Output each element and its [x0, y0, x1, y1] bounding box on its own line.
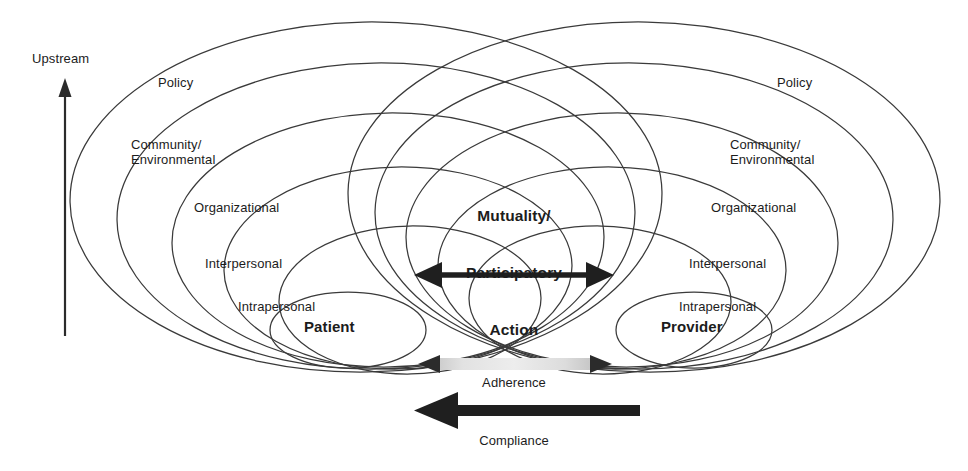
patient-level-interpersonal-label: Interpersonal — [205, 257, 282, 272]
patient-level-organizational-label: Organizational — [194, 201, 279, 216]
upstream-arrow-head — [59, 78, 72, 97]
compliance-arrow — [414, 392, 640, 429]
patient-level-intrapersonal-label: Intrapersonal — [238, 300, 315, 315]
patient-level-community-label: Community/Environmental — [131, 138, 215, 167]
patient-level-policy-label: Policy — [158, 76, 193, 91]
compliance-label: Compliance — [454, 434, 574, 449]
compliance-arrow-head — [414, 392, 458, 429]
provider-level-intrapersonal-label: Intrapersonal — [679, 300, 756, 315]
mutuality-label-block: Mutuality/ Participatory Action — [426, 168, 602, 377]
provider-actor-label: Provider — [661, 320, 723, 335]
adherence-label: Adherence — [454, 376, 574, 391]
provider-level-community-label: Community/Environmental — [730, 138, 814, 167]
provider-level-organizational-label: Organizational — [711, 201, 796, 216]
upstream-label: Upstream — [32, 52, 89, 67]
upstream-arrow — [59, 78, 72, 336]
diagram-canvas: Upstream Policy Community/Environmental … — [0, 0, 968, 471]
mutuality-line-2: Participatory — [426, 263, 602, 282]
mutuality-line-1: Mutuality/ — [426, 206, 602, 225]
provider-level-policy-label: Policy — [777, 76, 812, 91]
provider-level-interpersonal-label: Interpersonal — [689, 257, 766, 272]
mutuality-line-3: Action — [426, 320, 602, 339]
patient-actor-label: Patient — [304, 320, 355, 335]
compliance-arrow-shaft — [452, 405, 640, 416]
